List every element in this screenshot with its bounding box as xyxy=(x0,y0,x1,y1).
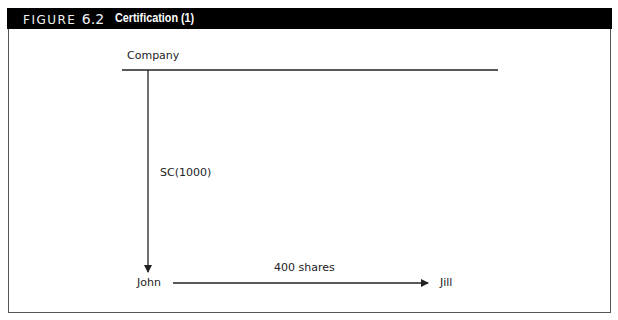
node-company: Company xyxy=(127,49,179,62)
node-john: John xyxy=(137,276,161,289)
edge-label-sc: SC(1000) xyxy=(160,166,211,179)
edge-label-shares: 400 shares xyxy=(274,261,335,274)
node-jill: Jill xyxy=(440,276,452,289)
